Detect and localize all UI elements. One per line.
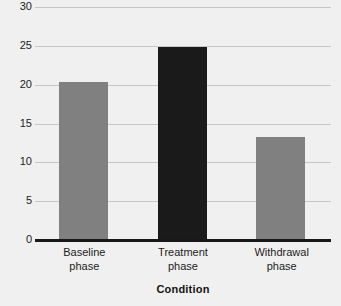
y-axis-tick-label: 10 — [4, 156, 32, 167]
x-axis-category-label-line: phase — [232, 260, 331, 274]
bars-group — [35, 7, 331, 240]
x-axis-title: Condition — [35, 283, 331, 295]
x-axis-category-label-line: Treatment — [134, 246, 233, 260]
bar — [158, 47, 207, 240]
y-axis-tick-label: 5 — [4, 195, 32, 206]
x-axis-category-label-line: phase — [134, 260, 233, 274]
y-axis-tick-label: 0 — [4, 234, 32, 245]
y-axis-tick-labels: 051015202530 — [0, 0, 32, 306]
x-axis-category-labels: BaselinephaseTreatmentphaseWithdrawalpha… — [35, 246, 331, 280]
x-axis-category-label-line: Withdrawal — [232, 246, 331, 260]
bar — [59, 82, 108, 240]
x-axis-category-label: Baselinephase — [35, 246, 134, 273]
bar — [256, 137, 305, 240]
bar-chart: 051015202530 BaselinephaseTreatmentphase… — [0, 0, 341, 306]
x-axis-category-label: Withdrawalphase — [232, 246, 331, 273]
y-axis-tick-label: 25 — [4, 40, 32, 51]
y-axis-tick-label: 20 — [4, 79, 32, 90]
y-axis-tick-label: 30 — [4, 1, 32, 12]
x-axis-category-label: Treatmentphase — [134, 246, 233, 273]
x-axis-category-label-line: Baseline — [35, 246, 134, 260]
y-axis-tick-label: 15 — [4, 118, 32, 129]
x-axis-line — [35, 239, 331, 242]
x-axis-category-label-line: phase — [35, 260, 134, 274]
